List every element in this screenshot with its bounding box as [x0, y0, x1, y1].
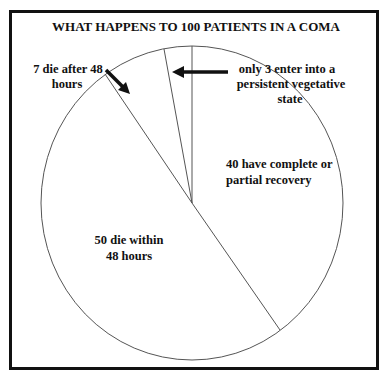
- label-die-after-line2: hours: [52, 77, 83, 91]
- pie-chart: WHAT HAPPENS TO 100 PATIENTS IN A COMA 7…: [0, 0, 387, 379]
- label-die-within-line1: 50 die within: [95, 233, 164, 247]
- label-vegetative-line3: state: [278, 92, 303, 106]
- chart-title: WHAT HAPPENS TO 100 PATIENTS IN A COMA: [52, 19, 340, 34]
- label-vegetative-line2: persistent vegetative: [237, 77, 346, 91]
- label-die-after-line1: 7 die after 48: [33, 62, 103, 76]
- label-vegetative-line1: only 3 enter into a: [239, 62, 336, 76]
- label-recovery-line2: partial recovery: [226, 173, 312, 187]
- label-recovery-line1: 40 have complete or: [226, 157, 333, 171]
- label-die-within-line2: 48 hours: [106, 249, 152, 263]
